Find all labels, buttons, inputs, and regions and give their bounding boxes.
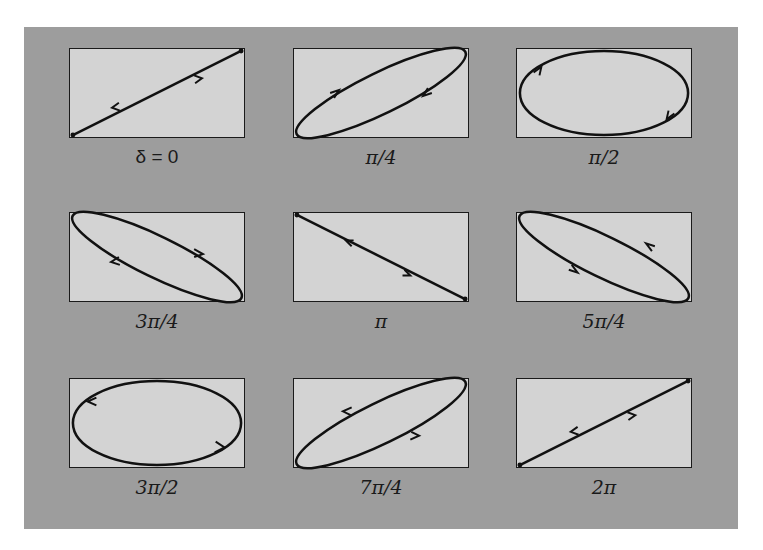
line-ascending-curve [517,379,691,467]
arrow-icon [194,75,202,83]
line-descending-curve [294,213,468,301]
panel-label: π [293,310,469,333]
panel-label: δ = 0 [69,146,245,168]
plot-box [293,378,469,468]
plot-box [69,378,245,468]
ellipse-ascending-curve [294,379,468,467]
ellipse-descending-curve [70,213,244,301]
plot-box [69,212,245,302]
panel-label: 3π/2 [69,476,245,499]
ellipse-axis-aligned-curve [517,49,691,137]
plot-box [516,48,692,138]
ellipse-axis-aligned-curve [70,379,244,467]
plot-box [516,378,692,468]
plot-box [293,212,469,302]
arrow-icon [646,243,655,251]
ellipse-descending-curve [517,213,691,301]
arrow-icon [215,442,225,453]
panel-label: π/4 [293,146,469,169]
arrow-icon [343,407,352,415]
plot-box [69,48,245,138]
arrow-icon [112,103,120,111]
ellipse-ascending-curve [294,49,468,137]
arrow-icon [627,412,635,420]
plot-box [293,48,469,138]
line-ascending-curve [70,49,244,137]
panel-label: 5π/4 [516,310,692,333]
panel-label: 7π/4 [293,476,469,499]
arrow-icon [571,427,579,435]
plot-box [516,212,692,302]
panel-label: 2π [516,476,692,499]
arrow-icon [410,432,419,440]
panel-label: 3π/4 [69,310,245,333]
panel-label: π/2 [516,146,692,169]
